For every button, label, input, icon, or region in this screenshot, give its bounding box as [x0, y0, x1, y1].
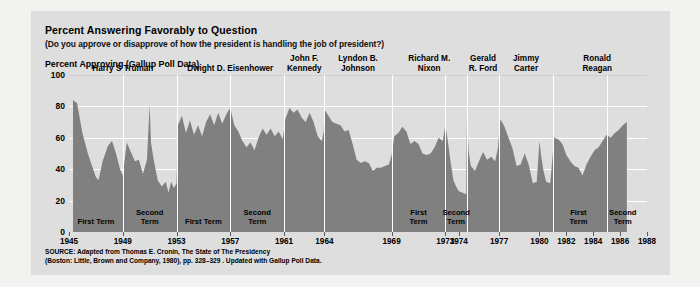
term-divider-1 [123, 75, 124, 232]
president-divider-7 [553, 75, 554, 232]
x-tick-mark-1988 [647, 232, 648, 236]
president-label-band: Harry S TrumanDwight D. EisenhowerJohn F… [69, 75, 647, 76]
president-label-ronald-reagan: Ronald Reagan [582, 54, 612, 73]
president-divider-6 [499, 75, 500, 232]
x-tick-label-1957: 1957 [221, 237, 239, 246]
president-divider-2 [284, 75, 285, 232]
y-tick-label-40: 40 [56, 164, 65, 174]
x-tick-label-1953: 1953 [167, 237, 185, 246]
president-label-richard-m-nixon: Richard M. Nixon [408, 54, 450, 73]
president-label-dwight-d-eisenhower: Dwight D. Eisenhower [187, 64, 273, 74]
x-tick-mark-1984 [593, 232, 594, 236]
x-tick-label-1988: 1988 [638, 237, 656, 246]
x-tick-label-1945: 1945 [60, 237, 78, 246]
plot-clip: First TermSecond TermFirst TermSecond Te… [69, 75, 647, 232]
source-note: SOURCE: Adapted from Thomas E. Cronin, T… [45, 248, 322, 265]
term-label-2: First Term [185, 217, 222, 226]
term-label-6: First Term [569, 208, 587, 226]
term-divider-7 [607, 75, 608, 232]
y-tick-label-0: 0 [60, 227, 65, 237]
chart-subtitle: (Do you approve or disapprove of how the… [45, 39, 384, 49]
term-divider-3 [230, 75, 231, 232]
x-tick-label-1961: 1961 [275, 237, 293, 246]
president-divider-1 [177, 75, 178, 232]
x-tick-label-1986: 1986 [611, 237, 629, 246]
president-divider-4 [392, 75, 393, 232]
y-tick-label-80: 80 [56, 101, 65, 111]
president-divider-3 [324, 75, 325, 232]
term-label-3: Second Term [243, 208, 270, 226]
chart-panel: Percent Answering Favorably to Question … [31, 11, 670, 275]
y-tick-label-60: 60 [56, 133, 65, 143]
term-label-4: First Term [409, 208, 427, 226]
x-tick-mark-1953 [177, 232, 178, 236]
x-tick-mark-1957 [230, 232, 231, 236]
x-tick-label-1969: 1969 [382, 237, 400, 246]
x-tick-mark-1964 [324, 232, 325, 236]
chart-title: Percent Answering Favorably to Question [45, 24, 257, 36]
x-tick-label-1977: 1977 [490, 237, 508, 246]
x-tick-label-1982: 1982 [557, 237, 575, 246]
x-tick-label-1964: 1964 [315, 237, 333, 246]
term-label-7: Second Term [609, 208, 636, 226]
president-label-john-f-kennedy: John F. Kennedy [287, 54, 322, 73]
x-tick-mark-1973 [445, 232, 446, 236]
president-label-gerald-r-ford: Gerald R. Ford [469, 54, 498, 73]
x-tick-label-1974: 1974 [450, 237, 468, 246]
x-tick-mark-1949 [123, 232, 124, 236]
x-tick-label-1980: 1980 [530, 237, 548, 246]
x-tick-label-1949: 1949 [114, 237, 132, 246]
x-tick-mark-1982 [566, 232, 567, 236]
x-tick-mark-1945 [69, 232, 70, 236]
term-label-5: Second Term [442, 208, 469, 226]
term-label-0: First Term [78, 217, 115, 226]
y-tick-label-20: 20 [56, 196, 65, 206]
x-tick-mark-1974 [459, 232, 460, 236]
x-tick-mark-1969 [392, 232, 393, 236]
x-tick-mark-1980 [539, 232, 540, 236]
president-label-lyndon-b-johnson: Lyndon B. Johnson [338, 54, 378, 73]
x-tick-mark-1961 [284, 232, 285, 236]
plot-area: First TermSecond TermFirst TermSecond Te… [69, 75, 647, 232]
y-tick-label-100: 100 [51, 70, 65, 80]
x-tick-mark-1986 [620, 232, 621, 236]
term-label-1: Second Term [136, 208, 163, 226]
x-tick-label-1984: 1984 [584, 237, 602, 246]
x-tick-mark-1977 [499, 232, 500, 236]
president-label-harry-s-truman: Harry S Truman [92, 64, 153, 74]
president-label-jimmy-carter: Jimmy Carter [513, 54, 539, 73]
